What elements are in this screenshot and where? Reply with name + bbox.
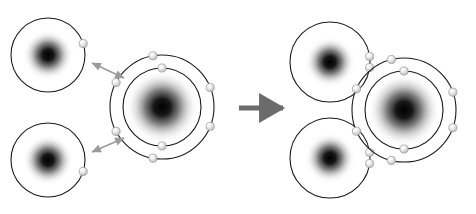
oxygen-left-shell-2-electron-2-body [112,78,120,86]
oxygen-right-shell-1-electron-2-highlight [402,146,405,149]
atom-hydrogen-bottom-left [11,123,87,197]
oxygen-right-shell-2-electron-4 [387,156,395,164]
oxygen-left-shell-2-electron-5 [206,122,214,130]
oxygen-left-shell-1-electron-2-body [158,142,166,150]
oxygen-right-shell-2-electron-2-body [352,85,360,93]
hydrogen-top-right-nucleus [304,36,356,88]
oxygen-left-shell-2-electron-1-highlight [151,53,154,56]
hydrogen-bottom-left-shell-1-electron-1 [79,167,87,175]
oxygen-right-shell-2-electron-1-highlight [389,57,392,60]
oxygen-right-shell-2-electron-4-body [387,156,395,164]
oxygen-left-shell-2-electron-5-highlight [208,124,211,127]
oxygen-right-shell-1-electron-2 [400,145,408,153]
atom-hydrogen-top-right [290,22,374,102]
hydrogen-top-left-nucleus [22,29,74,81]
oxygen-left-shell-2-electron-4 [149,154,157,162]
panel-after-bonding [290,22,457,198]
oxygen-right-shell-2-electron-1 [387,55,395,63]
oxygen-left-shell-2-electron-1-body [149,52,157,60]
oxygen-right-shell-2-electron-5-body [449,124,457,132]
hydrogen-top-left-shell-1-electron-1 [79,39,87,47]
hydrogen-bottom-right-nucleus [304,132,356,184]
oxygen-right-shell-2-electron-2-highlight [354,86,357,89]
oxygen-left-shell-2-electron-5-body [206,122,214,130]
hydrogen-top-right-shell-1-electron-2-highlight [367,65,370,68]
oxygen-left-shell-2-electron-1 [149,52,157,60]
oxygen-right-shell-2-electron-1-body [387,55,395,63]
oxygen-right-shell-2-electron-3-body [352,127,360,135]
hydrogen-bottom-right-shell-1-electron-1-highlight [367,161,370,164]
oxygen-left-shell-2-electron-3 [112,127,120,135]
oxygen-left-shell-2-electron-6-body [206,83,214,91]
oxygen-left-shell-2-electron-2 [112,78,120,86]
oxygen-right-shell-1-electron-2-body [400,145,408,153]
oxygen-right-shell-2-electron-6-highlight [450,90,453,93]
oxygen-left-shell-1-electron-1-highlight [160,65,163,68]
oxygen-right-shell-2-electron-5 [449,124,457,132]
bond-arrow-top [92,63,124,78]
oxygen-left-shell-2-electron-4-highlight [151,156,154,159]
oxygen-left-shell-2-electron-4-body [149,154,157,162]
oxygen-right-shell-1-electron-1-body [400,67,408,75]
oxygen-left-shell-2-electron-6-highlight [208,85,211,88]
oxygen-right-shell-2-electron-3-highlight [354,129,357,132]
hydrogen-bottom-right-shell-1-electron-1 [366,159,374,167]
atom-hydrogen-top-left [11,18,87,92]
oxygen-right-nucleus [366,72,442,148]
oxygen-right-shell-2-electron-6-body [449,88,457,96]
oxygen-left-shell-1-electron-2-highlight [160,143,163,146]
oxygen-left-shell-2-electron-3-highlight [114,129,117,132]
oxygen-left-nucleus [124,69,200,145]
atom-oxygen-left [110,52,214,163]
hydrogen-top-right-shell-1-electron-1-body [366,52,374,60]
oxygen-left-shell-2-electron-3-body [112,127,120,135]
hydrogen-bottom-right-shell-1-electron-1-body [366,159,374,167]
hydrogen-top-left-shell-1-electron-1-highlight [81,41,84,44]
water-molecule-bonding-diagram [0,0,476,214]
oxygen-right-shell-2-electron-4-highlight [389,158,392,161]
oxygen-left-shell-1-electron-2 [158,142,166,150]
oxygen-right-shell-2-electron-5-highlight [450,125,453,128]
oxygen-right-shell-1-electron-1-highlight [402,68,405,71]
oxygen-left-shell-1-electron-1-body [158,64,166,72]
oxygen-left-shell-2-electron-2-highlight [114,80,117,83]
oxygen-left-shell-2-electron-6 [206,83,214,91]
bond-arrow-bottom [92,138,124,152]
diagram-canvas [0,0,476,214]
oxygen-right-shell-2-electron-3 [352,127,360,135]
hydrogen-top-right-shell-1-electron-1 [366,52,374,60]
oxygen-right-shell-1-electron-1 [400,67,408,75]
hydrogen-bottom-right-shell-1-electron-2-highlight [367,150,370,153]
hydrogen-bottom-left-nucleus [22,134,74,186]
hydrogen-bottom-left-shell-1-electron-1-highlight [81,169,84,172]
panel-before-bonding [11,18,214,197]
atom-hydrogen-bottom-right [290,118,374,198]
oxygen-right-shell-2-electron-6 [449,88,457,96]
hydrogen-top-right-shell-1-electron-1-highlight [367,54,370,57]
atom-oxygen-right [352,55,457,164]
oxygen-right-shell-2-electron-2 [352,85,360,93]
oxygen-left-shell-1-electron-1 [158,64,166,72]
hydrogen-top-left-shell-1-electron-1-body [79,39,87,47]
hydrogen-bottom-left-shell-1-electron-1-body [79,167,87,175]
